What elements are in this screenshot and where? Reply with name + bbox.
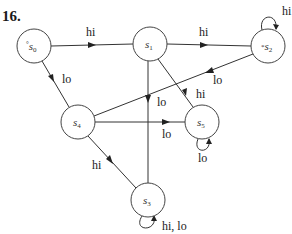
arrowhead-icon (206, 138, 212, 144)
node-s3: s3 (131, 183, 165, 217)
edge-label-s1-s2: hi (199, 25, 209, 39)
edge-label-s3-self: hi, lo (162, 219, 187, 233)
edge-label-s2-self: hi (282, 4, 292, 18)
edge-label-s4-s5: lo (162, 127, 171, 141)
arrowhead-icon (273, 24, 279, 30)
node-s4: s4 (61, 105, 95, 139)
edge-s1-s2 (167, 44, 251, 46)
edge-s2-s4 (94, 54, 253, 116)
edge-s3-self (140, 216, 155, 228)
edge-label-s1-s3: lo (157, 95, 166, 109)
node-s1: s1 (133, 27, 167, 61)
edge-label-s0-s1: hi (86, 25, 96, 39)
edge-label-s5-self: lo (198, 151, 207, 165)
edge-label-s5-s1: hi (196, 87, 206, 101)
edge-label-s0-s4: lo (62, 72, 71, 86)
node-s0: °s0 (17, 29, 51, 63)
arrowhead-icon (162, 119, 170, 125)
edge-label-s4-s3: hi (92, 158, 102, 172)
arrowhead-icon (145, 95, 151, 103)
state-diagram: hi lo hi hi lo lo hi lo lo (0, 0, 292, 234)
arrowhead-icon (88, 42, 96, 48)
edge-s5-self (197, 139, 209, 150)
edge-s2-self (261, 17, 276, 30)
arrowhead-icon (200, 42, 208, 48)
arrowhead-icon (48, 74, 54, 82)
node-s5: s5 (185, 105, 219, 139)
node-s2: *s2 (251, 29, 285, 63)
edge-label-s2-s4: lo (213, 73, 222, 87)
